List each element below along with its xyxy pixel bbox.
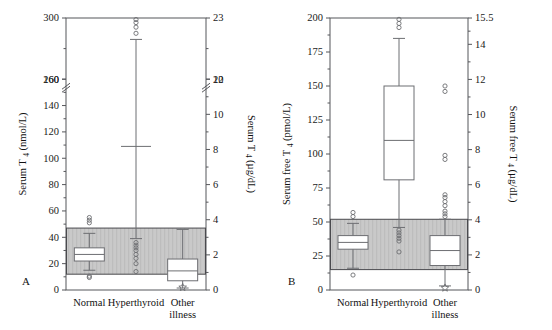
category-label-B-2: Other [433, 297, 457, 308]
left-tick-label-A-100: 100 [43, 153, 59, 164]
box-B-other-illness-outlier-4 [443, 200, 447, 204]
left-tick-label-B-50: 50 [313, 216, 324, 227]
left-axis-title-B: Serum free T 4 (pmol/L) [281, 103, 295, 205]
category-label-B-0: Normal [337, 297, 369, 308]
right-tick-label-A-10: 10 [213, 109, 224, 120]
right-tick-label-A-4: 4 [213, 214, 219, 225]
box-A-hyperthyroid-outlier-8 [134, 31, 138, 35]
box-A-hyperthyroid-outlier-9 [134, 25, 138, 29]
left-tick-label-B-0: 0 [318, 284, 323, 295]
box-B-other-illness-outlier-7 [443, 157, 447, 161]
box-B-other-illness-outlier-10 [443, 84, 447, 88]
left-tick-label-B-175: 175 [307, 46, 323, 57]
left-tick-label-B-200: 200 [307, 12, 323, 23]
left-tick-label-B-25: 25 [313, 250, 324, 261]
right-tick-label-A-6: 6 [213, 179, 218, 190]
box-B-hyperthyroid-outlier-7 [397, 21, 401, 25]
category-label-A-2: Other [171, 297, 195, 308]
category-label-B-1: Hyperthyroid [371, 297, 428, 308]
left-tick-label-A-80: 80 [49, 179, 60, 190]
right-tick-label-A-2: 2 [213, 249, 218, 260]
panel-label-B: B [288, 275, 295, 287]
right-axis-title-A: Serum T 4 (µg/dL) [244, 115, 258, 193]
box-B-other-illness-outlier-6 [443, 193, 447, 197]
category-label-B-2-line2: illness [432, 309, 459, 320]
right-tick-label-A-23: 23 [213, 12, 224, 23]
left-tick-label-B-100: 100 [307, 148, 323, 159]
figure-canvas: 0204060801001201401602603000246810122023… [0, 0, 552, 330]
left-tick-label-A-20: 20 [49, 258, 60, 269]
left-tick-label-A-300: 300 [43, 12, 59, 23]
right-tick-label-A-8: 8 [213, 144, 218, 155]
right-tick-label-B-6: 6 [475, 179, 480, 190]
right-tick-label-A-20: 20 [213, 74, 224, 85]
box-B-hyperthyroid-outlier-6 [397, 25, 401, 29]
box-B-other-illness-outlier-8 [443, 153, 447, 157]
box-B-normal-outlier-0 [351, 273, 355, 277]
right-tick-label-B-0: 0 [475, 284, 480, 295]
left-axis-title-A: Serum T 4 (nmol/L) [17, 112, 31, 195]
right-tick-label-B-8: 8 [475, 144, 480, 155]
category-label-A-2-line2: illness [169, 309, 196, 320]
box-B-other-illness-outlier-3 [443, 204, 447, 208]
left-tick-label-A-260: 260 [43, 74, 59, 85]
box-A-other-illness-rect [168, 259, 198, 281]
box-B-hyperthyroid-rect [384, 86, 414, 180]
category-label-A-0: Normal [73, 297, 105, 308]
box-B-other-illness-outlier-2 [443, 209, 447, 213]
box-B-normal-outlier-1 [351, 214, 355, 218]
left-tick-label-B-150: 150 [307, 80, 323, 91]
left-tick-label-B-75: 75 [313, 182, 324, 193]
right-tick-label-B-14: 14 [475, 39, 486, 50]
category-label-A-1: Hyperthyroid [108, 297, 165, 308]
left-tick-label-A-40: 40 [49, 232, 60, 243]
box-B-other-illness-outlier-9 [443, 89, 447, 93]
left-tick-label-A-140: 140 [43, 100, 59, 111]
right-tick-label-B-2: 2 [475, 249, 480, 260]
left-tick-label-A-0: 0 [54, 284, 59, 295]
right-tick-label-B-12: 12 [475, 74, 486, 85]
left-tick-label-A-60: 60 [49, 205, 60, 216]
box-A-normal-outlier-4 [87, 215, 91, 219]
right-tick-label-A-0: 0 [213, 284, 218, 295]
right-tick-label-B-4: 4 [475, 214, 481, 225]
figure-root: 0204060801001201401602603000246810122023… [0, 0, 552, 330]
panel-label-A: A [22, 275, 30, 287]
left-tick-label-A-120: 120 [43, 126, 59, 137]
right-tick-label-B-15.5: 15.5 [475, 12, 493, 23]
right-axis-title-B: Serum free T 4 (µg/dL) [506, 106, 520, 203]
right-tick-label-B-10: 10 [475, 109, 486, 120]
box-B-normal-outlier-2 [351, 210, 355, 214]
left-tick-label-B-125: 125 [307, 114, 323, 125]
